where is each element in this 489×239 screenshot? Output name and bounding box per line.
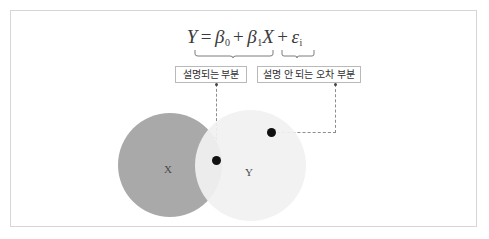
explained-point-marker <box>212 156 221 165</box>
venn-label-y: Y <box>245 166 253 178</box>
formula-error-subscript: i <box>300 37 303 48</box>
label-unexplained-text: 설명 안 되는 오차 부분 <box>263 69 355 80</box>
label-explained-text: 설명되는 부분 <box>183 69 240 80</box>
formula-plus-2: + <box>274 26 291 47</box>
formula-predictor: X <box>262 26 274 47</box>
error-point-marker <box>267 128 276 137</box>
venn-label-x: X <box>164 163 172 175</box>
brace-explained <box>194 50 274 59</box>
formula-intercept-symbol: β <box>215 26 225 47</box>
regression-formula: Y=β0+β1X+εi <box>0 26 489 48</box>
formula-slope-symbol: β <box>247 26 257 47</box>
formula-error-symbol: ε <box>292 26 300 47</box>
label-unexplained-part: 설명 안 되는 오차 부분 <box>257 66 361 83</box>
connector-error-vertical <box>335 84 336 133</box>
connector-error-tick <box>334 83 337 86</box>
figure-canvas: Y=β0+β1X+εi 설명되는 부분 설명 안 되는 오차 부분 X Y <box>0 0 489 239</box>
connector-explained-tick <box>215 83 218 86</box>
formula-plus-1: + <box>230 26 247 47</box>
formula-response: Y <box>187 26 198 47</box>
brace-unexplained <box>281 50 315 59</box>
formula-equals: = <box>198 26 215 47</box>
label-explained-part: 설명되는 부분 <box>175 66 247 83</box>
